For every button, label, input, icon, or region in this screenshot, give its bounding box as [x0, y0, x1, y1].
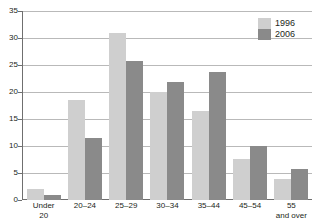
bar-group	[188, 11, 229, 200]
x-tick-label: 55and over	[271, 201, 312, 221]
bar-group	[147, 11, 188, 200]
bar-2006	[209, 72, 226, 200]
bar-1996	[233, 159, 250, 200]
y-tickmark	[18, 200, 22, 201]
x-tick-label: 45–54	[229, 201, 270, 221]
bar-1996	[150, 92, 167, 200]
chart-legend: 1996 2006	[258, 18, 295, 40]
y-tick-label: 30	[0, 34, 18, 42]
x-tick-label: 25–29	[106, 201, 147, 221]
bar-2006	[126, 61, 143, 200]
x-tick-label: Under20	[23, 201, 64, 221]
bar-2006	[291, 169, 308, 200]
y-tick-label: 15	[0, 115, 18, 123]
legend-item-2006: 2006	[258, 29, 295, 40]
y-tick-label: 35	[0, 7, 18, 15]
legend-label-1996: 1996	[275, 18, 295, 29]
y-tickmark	[18, 11, 22, 12]
y-tickmark	[18, 92, 22, 93]
y-tick-label: 5	[0, 169, 18, 177]
bar-1996	[274, 179, 291, 200]
y-tickmark	[18, 38, 22, 39]
dark-gray-swatch-icon	[258, 29, 271, 40]
x-tick-label: 20–24	[64, 201, 105, 221]
bar-group	[106, 11, 147, 200]
bar-1996	[68, 100, 85, 200]
y-tick-label: 25	[0, 61, 18, 69]
bar-1996	[27, 189, 44, 200]
bar-2006	[250, 146, 267, 200]
bar-2006	[167, 82, 184, 200]
y-axis-labels: 05101520253035	[0, 11, 18, 200]
bar-chart: 05101520253035 Under2020–2425–2930–3435–…	[0, 0, 319, 224]
light-gray-swatch-icon	[258, 18, 271, 29]
bar-group	[64, 11, 105, 200]
y-tick-label: 0	[0, 196, 18, 204]
y-tickmark	[18, 119, 22, 120]
legend-label-2006: 2006	[275, 29, 295, 40]
y-tick-label: 10	[0, 142, 18, 150]
x-tick-label: 30–34	[147, 201, 188, 221]
bar-1996	[109, 33, 126, 200]
y-tickmark	[18, 173, 22, 174]
y-tickmark	[18, 65, 22, 66]
bar-2006	[85, 138, 102, 200]
x-axis-labels: Under2020–2425–2930–3435–4445–5455and ov…	[23, 201, 312, 221]
bar-1996	[192, 111, 209, 200]
y-tick-label: 20	[0, 88, 18, 96]
x-tick-label: 35–44	[188, 201, 229, 221]
y-tickmark	[18, 146, 22, 147]
bar-group	[23, 11, 64, 200]
legend-item-1996: 1996	[258, 18, 295, 29]
bar-2006	[44, 195, 61, 200]
